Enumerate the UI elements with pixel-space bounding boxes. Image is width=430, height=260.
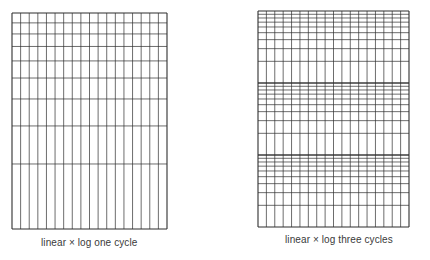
- linear-log-three-cycles-grid: [0, 0, 430, 260]
- caption-three-cycles: linear × log three cycles: [285, 234, 393, 245]
